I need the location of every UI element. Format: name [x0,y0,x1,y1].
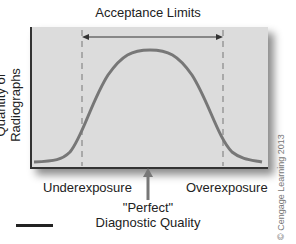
underexposure-label: Underexposure [43,180,132,195]
overexposure-label: Overexposure [186,180,268,195]
decorative-bar [16,224,53,227]
y-axis-label: Quantity of Radiographs [0,35,23,175]
distribution-curve [34,50,262,162]
arrow-up-icon [143,168,153,177]
arrow-left-icon [82,34,89,40]
copyright-notice: © Cengage Learning 2013 [276,134,286,240]
arrow-right-icon [216,34,223,40]
diagnostic-quality-label: Diagnostic Quality [0,215,296,230]
perfect-label: "Perfect" [0,200,296,215]
